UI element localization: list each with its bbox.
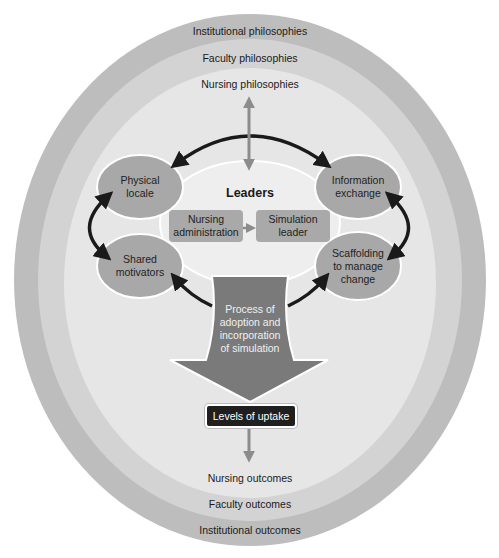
physical-locale-line1: Physical bbox=[120, 174, 159, 187]
shared-motivators-line1: Shared bbox=[123, 253, 157, 266]
process-label: Process of adoption and incorporation of… bbox=[200, 303, 300, 355]
shared-motivators-line2: motivators bbox=[116, 266, 164, 279]
information-exchange-line2: exchange bbox=[335, 187, 381, 200]
faculty-philosophies-label: Faculty philosophies bbox=[150, 52, 350, 65]
physical-locale-line2: locale bbox=[126, 187, 153, 200]
nursing-administration-box: Nursing administration bbox=[169, 210, 243, 242]
nursing-philosophies-label: Nursing philosophies bbox=[150, 78, 350, 91]
process-line1: Process of bbox=[200, 303, 300, 316]
scaffolding-label: Scaffolding to manage change bbox=[318, 244, 398, 288]
nursing-outcomes-label: Nursing outcomes bbox=[150, 472, 350, 485]
levels-of-uptake-box: Levels of uptake bbox=[205, 404, 297, 428]
information-exchange-label: Information exchange bbox=[318, 170, 398, 204]
process-line4: of simulation bbox=[200, 342, 300, 355]
faculty-outcomes-label: Faculty outcomes bbox=[150, 498, 350, 511]
institutional-philosophies-label: Institutional philosophies bbox=[150, 25, 350, 38]
simulation-leader-box: Simulation leader bbox=[256, 210, 330, 242]
leaders-title: Leaders bbox=[200, 187, 300, 200]
process-line3: incorporation bbox=[200, 329, 300, 342]
institutional-outcomes-label: Institutional outcomes bbox=[150, 524, 350, 537]
simulation-leader-line2: leader bbox=[278, 226, 307, 239]
simulation-leader-line1: Simulation bbox=[268, 213, 317, 226]
nursing-administration-line1: Nursing bbox=[188, 213, 224, 226]
nursing-administration-line2: administration bbox=[173, 226, 238, 239]
scaffolding-line2: to manage bbox=[333, 260, 383, 273]
scaffolding-line1: Scaffolding bbox=[332, 247, 384, 260]
process-line2: adoption and bbox=[200, 316, 300, 329]
information-exchange-line1: Information bbox=[332, 174, 385, 187]
shared-motivators-label: Shared motivators bbox=[100, 249, 180, 283]
physical-locale-label: Physical locale bbox=[100, 170, 180, 204]
scaffolding-line3: change bbox=[341, 273, 375, 286]
